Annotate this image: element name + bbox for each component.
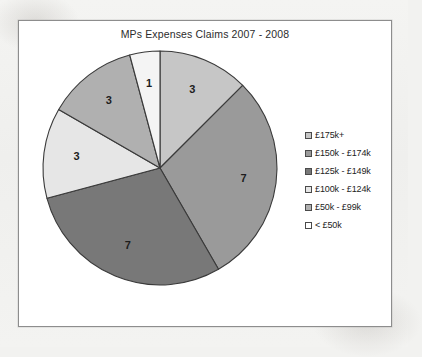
legend-swatch-icon: [305, 186, 312, 193]
pie-slice-value-label: 3: [189, 83, 195, 95]
chart-legend: £175k+£150k - £174k£125k - £149k£100k - …: [305, 126, 403, 234]
legend-swatch-icon: [305, 222, 312, 229]
legend-swatch-icon: [305, 204, 312, 211]
legend-swatch-icon: [305, 150, 312, 157]
legend-item[interactable]: £150k - £174k: [305, 144, 403, 162]
chart-title: MPs Expenses Claims 2007 - 2008: [19, 28, 391, 40]
legend-item[interactable]: £125k - £149k: [305, 162, 403, 180]
pie-slice-value-label: 7: [125, 239, 131, 251]
chart-frame: MPs Expenses Claims 2007 - 2008 377331 £…: [18, 20, 392, 327]
legend-item-label: £50k - £99k: [315, 202, 361, 212]
legend-item-label: < £50k: [315, 220, 342, 230]
legend-item[interactable]: < £50k: [305, 216, 403, 234]
pie-slice-value-label: 7: [240, 172, 246, 184]
legend-item[interactable]: £50k - £99k: [305, 198, 403, 216]
pie-slice-value-label: 3: [73, 150, 79, 162]
legend-item-label: £100k - £124k: [315, 184, 371, 194]
legend-item-label: £125k - £149k: [315, 166, 371, 176]
legend-item[interactable]: £175k+: [305, 126, 403, 144]
pie-slice-group: [43, 51, 277, 285]
pie-slice-value-label: 3: [106, 94, 112, 106]
legend-item-label: £175k+: [315, 130, 344, 140]
pie-slice-value-label: 1: [146, 77, 152, 89]
pie-chart-svg: 377331: [41, 49, 279, 287]
legend-swatch-icon: [305, 132, 312, 139]
legend-swatch-icon: [305, 168, 312, 175]
legend-item[interactable]: £100k - £124k: [305, 180, 403, 198]
pie-chart: 377331: [41, 49, 279, 287]
legend-item-label: £150k - £174k: [315, 148, 371, 158]
